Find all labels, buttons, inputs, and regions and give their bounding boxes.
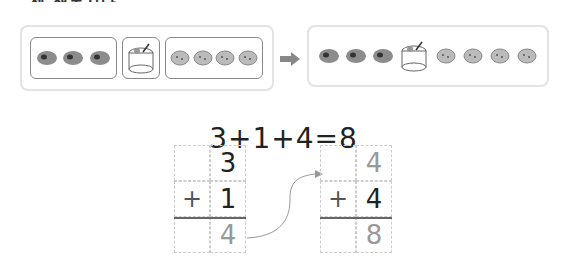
snail-bread-icon [345, 47, 367, 65]
cookie-icon [516, 47, 538, 65]
top-digit: 4 [356, 145, 392, 181]
right-picture-panel [307, 25, 549, 87]
result-digit: 4 [210, 217, 246, 253]
plus-sign: + [320, 181, 356, 217]
carry-arrow-icon [245, 168, 325, 243]
cake-group [122, 37, 160, 79]
snail-bread-icon [36, 49, 58, 67]
instruction-text: 셈 해봅시다. [30, 0, 124, 2]
snail-bread-icon [89, 49, 111, 67]
second-digit: 1 [210, 181, 246, 217]
cookie-icon [435, 47, 457, 65]
cookie-icon [169, 49, 191, 67]
cookie-icon [462, 47, 484, 65]
cake-icon [126, 41, 156, 75]
empty-cell [174, 145, 210, 181]
cookie-group [165, 37, 263, 79]
sum-line [174, 217, 246, 219]
second-digit: 4 [356, 181, 392, 217]
cookie-icon [237, 49, 259, 67]
snail-bread-group [30, 37, 117, 79]
cake-icon [399, 39, 429, 73]
snail-bread-icon [62, 49, 84, 67]
plus-sign: + [174, 181, 210, 217]
top-digit: 3 [210, 145, 246, 181]
sum-line [320, 217, 392, 219]
empty-cell [320, 145, 356, 181]
left-picture-panel [20, 25, 274, 91]
snail-bread-icon [318, 47, 340, 65]
cookie-icon [489, 47, 511, 65]
left-vertical-calc: 3 + 1 4 [174, 145, 246, 253]
cookie-icon [192, 49, 214, 67]
result-digit: 8 [356, 217, 392, 253]
right-arrow-icon [280, 52, 300, 66]
right-vertical-calc: 4 + 4 8 [320, 145, 392, 253]
snail-bread-icon [372, 47, 394, 65]
cookie-icon [214, 49, 236, 67]
empty-cell [320, 217, 356, 253]
equation: 3+1+4=8 [0, 122, 567, 155]
empty-cell [174, 217, 210, 253]
